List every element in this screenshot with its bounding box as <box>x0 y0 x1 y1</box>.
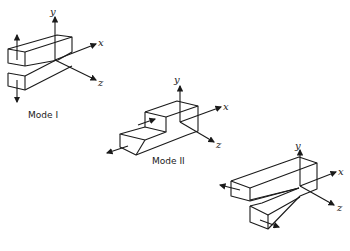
mode-2-label: Mode II <box>152 156 185 166</box>
svg-text:z: z <box>336 202 343 213</box>
svg-text:y: y <box>294 140 301 151</box>
svg-text:x: x <box>338 166 344 177</box>
svg-text:z: z <box>97 77 104 88</box>
svg-text:x: x <box>223 101 229 112</box>
mode-2-figure: y x z Mode II <box>107 74 229 166</box>
mode-1-figure: y x z Mode I <box>8 6 104 120</box>
mode-3-figure: y x z <box>220 140 344 229</box>
svg-text:z: z <box>215 139 222 150</box>
mode-1-label: Mode I <box>28 110 58 120</box>
svg-text:y: y <box>49 6 56 17</box>
svg-text:x: x <box>98 37 104 48</box>
fracture-modes-diagram: y x z Mode I y x z Mode II <box>0 0 350 251</box>
svg-text:y: y <box>173 74 180 85</box>
